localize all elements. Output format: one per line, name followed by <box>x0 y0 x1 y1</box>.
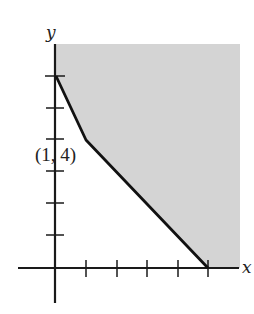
shaded-region <box>56 44 240 268</box>
vertex-label: (1, 4) <box>35 144 76 166</box>
x-axis-label: x <box>242 257 252 277</box>
y-axis-label: y <box>45 22 56 42</box>
chart: y x (1, 4) <box>0 0 254 314</box>
